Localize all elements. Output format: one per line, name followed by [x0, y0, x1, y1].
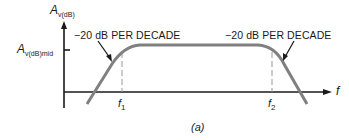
f2-label-subscript: 2: [271, 103, 275, 112]
frequency-response-curve: [87, 45, 307, 104]
y-axis-label-main: A: [50, 3, 58, 17]
y-axis-arrow-icon: [61, 21, 67, 29]
mid-label-main: A: [17, 42, 25, 56]
left-rolloff-arrowhead-icon: [106, 54, 112, 62]
bode-plot: [0, 0, 349, 140]
f1-label: f1: [118, 98, 126, 109]
figure-caption: (a): [191, 122, 204, 133]
rolloff-label-right: −20 dB PER DECADE: [225, 30, 331, 41]
f2-label: f2: [268, 98, 276, 109]
mid-label-subscript: v(dB)mid: [25, 50, 53, 57]
x-axis-label: f: [336, 85, 339, 97]
right-rolloff-pointer: [285, 41, 294, 57]
mid-band-label: Av(dB)mid: [17, 43, 53, 55]
f1-label-subscript: 1: [121, 103, 125, 112]
rolloff-label-left: −20 dB PER DECADE: [74, 30, 180, 41]
y-axis-label: Av(dB): [50, 4, 75, 16]
y-axis-label-subscript: v(dB): [58, 11, 75, 18]
x-axis-arrow-icon: [323, 89, 332, 95]
